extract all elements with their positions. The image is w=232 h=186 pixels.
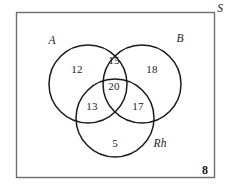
region-count-a-only: 12 <box>71 64 82 75</box>
region-count-b-only: 18 <box>146 64 157 75</box>
venn-diagram-canvas <box>0 0 232 186</box>
venn-diagram-figure: S A B Rh 12 15 18 20 13 17 5 8 <box>0 0 232 186</box>
region-count-b-rh: 17 <box>132 101 143 112</box>
set-label-a: A <box>48 35 55 47</box>
set-label-b: B <box>176 33 183 45</box>
region-count-a-b-rh: 20 <box>108 81 119 92</box>
set-label-rh: Rh <box>154 138 167 150</box>
universal-set-rectangle <box>17 13 215 178</box>
region-count-rh-only: 5 <box>112 138 118 149</box>
region-count-a-rh: 13 <box>86 101 97 112</box>
region-count-a-b: 15 <box>108 55 119 66</box>
universal-set-label: S <box>217 3 223 15</box>
outside-count-label: 8 <box>202 164 208 176</box>
